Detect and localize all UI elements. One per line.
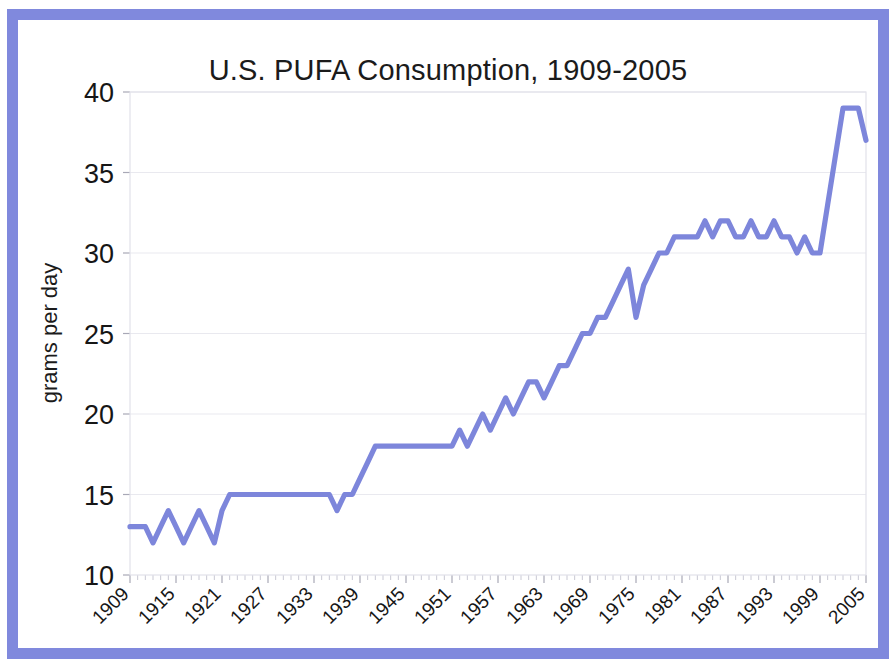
- x-tick-label: 1969: [548, 583, 593, 628]
- x-tick-label: 1975: [594, 583, 639, 628]
- y-tick-label: 20: [84, 400, 114, 430]
- x-tick-label: 1981: [640, 583, 685, 628]
- y-tick-labels-group: 10152025303540: [84, 78, 114, 591]
- figure-root: U.S. PUFA Consumption, 1909-2005 grams p…: [0, 0, 896, 669]
- x-tick-label: 1951: [410, 583, 455, 628]
- x-tick-label: 1915: [134, 583, 179, 628]
- x-tick-label: 2005: [824, 583, 869, 628]
- figure-canvas: U.S. PUFA Consumption, 1909-2005 grams p…: [18, 20, 878, 648]
- figure-border: U.S. PUFA Consumption, 1909-2005 grams p…: [7, 9, 889, 659]
- y-tick-label: 25: [84, 320, 114, 350]
- chart-plot: 10152025303540 1909191519211927193319391…: [18, 20, 878, 648]
- y-tick-label: 10: [84, 561, 114, 591]
- gridlines-group: [130, 92, 866, 495]
- x-tick-label: 1999: [778, 583, 823, 628]
- x-tick-label: 1993: [732, 583, 777, 628]
- x-tick-label: 1921: [180, 583, 225, 628]
- y-tick-label: 30: [84, 239, 114, 269]
- x-tick-label: 1957: [456, 583, 501, 628]
- data-series-line: [130, 108, 866, 543]
- x-tick-label: 1927: [226, 583, 271, 628]
- x-tick-labels-group: 1909191519211927193319391945195119571963…: [88, 583, 869, 628]
- x-tick-label: 1945: [364, 583, 409, 628]
- x-tick-label: 1987: [686, 583, 731, 628]
- x-tick-label: 1933: [272, 583, 317, 628]
- x-tick-label: 1963: [502, 583, 547, 628]
- x-tick-label: 1939: [318, 583, 363, 628]
- y-tick-label: 40: [84, 78, 114, 108]
- axis-ticks-group: [123, 92, 866, 583]
- y-tick-label: 35: [84, 159, 114, 189]
- y-tick-label: 15: [84, 481, 114, 511]
